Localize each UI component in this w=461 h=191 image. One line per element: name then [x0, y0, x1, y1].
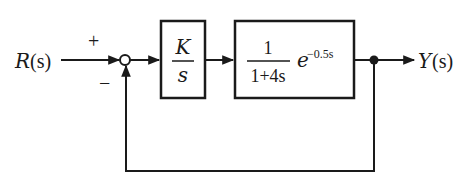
plant-denominator: 1+4s — [250, 66, 285, 86]
input-var: R — [14, 49, 30, 73]
controller-denominator: s — [178, 63, 188, 87]
input-label: R (s) — [14, 49, 51, 73]
output-var: Y — [418, 49, 433, 73]
block-diagram: R (s) + − K s 1 1+4s e −0.5s Y (s) — [0, 0, 461, 191]
controller-block: K s — [161, 21, 205, 98]
delay-exponent: −0.5s — [307, 47, 334, 61]
output-arg: (s) — [432, 50, 453, 73]
plant-numerator: 1 — [264, 38, 273, 58]
summing-junction — [120, 55, 130, 65]
controller-numerator: K — [175, 35, 192, 59]
input-arg: (s) — [30, 50, 51, 73]
output-label: Y (s) — [418, 49, 453, 73]
plus-sign: + — [88, 30, 99, 52]
minus-sign: − — [99, 72, 110, 94]
plant-block: 1 1+4s e −0.5s — [235, 21, 354, 98]
